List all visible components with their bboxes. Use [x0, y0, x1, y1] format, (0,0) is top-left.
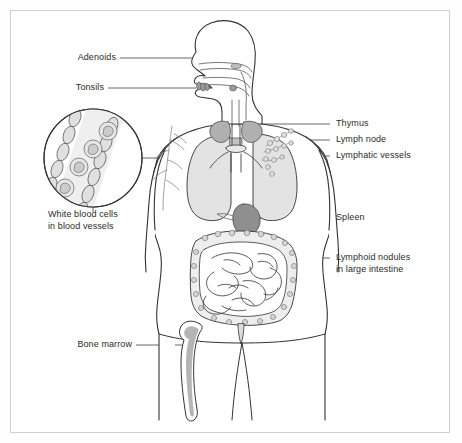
label-lymph-node-text: Lymph node	[336, 134, 386, 144]
label-wbc-line1: White blood cells	[48, 209, 184, 221]
appendix	[238, 324, 244, 344]
label-bone-marrow-text: Bone marrow	[77, 339, 132, 349]
inner-leg-left	[232, 343, 242, 420]
label-adenoids-text: Adenoids	[78, 52, 116, 62]
adenoid-tissue	[231, 63, 241, 68]
label-wbc-line2: in blood vessels	[48, 221, 184, 233]
label-lymphatic-vessels-text: Lymphatic vessels	[336, 150, 411, 160]
label-tonsils-text: Tonsils	[76, 82, 104, 92]
head-profile	[192, 21, 262, 124]
label-spleen-text: Spleen	[336, 212, 365, 222]
label-lymph-node: Lymph node	[336, 134, 386, 146]
label-lymphoid-nodules: Lymphoid nodules in large intestine	[336, 252, 410, 275]
femur-bone	[180, 321, 203, 421]
blood-vessel-inset	[37, 104, 142, 221]
lymphatic-system-figure: Adenoids Tonsils White blood cells in bl…	[0, 0, 462, 443]
label-tonsils: Tonsils	[0, 82, 104, 94]
label-bone-marrow: Bone marrow	[0, 339, 132, 351]
label-lymphoid-nodules-line1: Lymphoid nodules	[336, 252, 410, 264]
label-thymus-text: Thymus	[336, 118, 369, 128]
label-lymphatic-vessels: Lymphatic vessels	[336, 150, 411, 162]
label-lymphoid-nodules-line2: in large intestine	[336, 264, 410, 276]
label-adenoids: Adenoids	[0, 52, 116, 64]
label-white-blood-cells: White blood cells in blood vessels	[0, 209, 184, 232]
label-thymus: Thymus	[336, 118, 369, 130]
label-spleen: Spleen	[336, 212, 365, 224]
inner-leg-right	[242, 343, 252, 420]
